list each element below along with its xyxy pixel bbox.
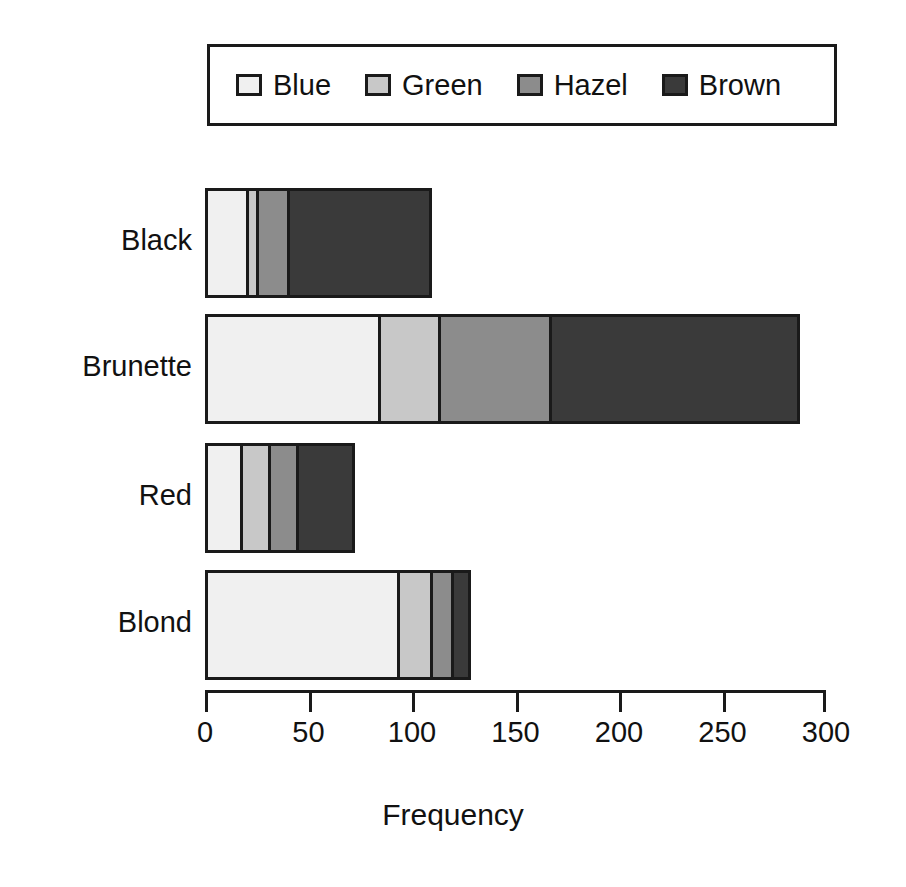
- x-axis-tick-label: 250: [698, 718, 746, 747]
- category-label-wrap: Brunette: [32, 352, 192, 386]
- bar-segment-black-hazel: [259, 191, 290, 295]
- x-axis-tick: [723, 690, 726, 712]
- category-label-red: Red: [32, 481, 192, 510]
- x-axis-tick-label: 0: [197, 718, 213, 747]
- bar-segment-brunette-green: [381, 317, 441, 421]
- bar-segment-red-hazel: [271, 446, 299, 550]
- bar-segment-black-brown: [290, 191, 429, 295]
- x-axis-tick-label: 200: [595, 718, 643, 747]
- bar-segment-red-green: [243, 446, 271, 550]
- category-label-wrap: Blond: [32, 608, 192, 642]
- x-axis-tick: [205, 690, 208, 712]
- category-label-blond: Blond: [32, 608, 192, 637]
- x-axis-tick-label: 50: [292, 718, 324, 747]
- x-axis-title: Frequency: [0, 800, 906, 830]
- category-label-wrap: Red: [32, 481, 192, 515]
- bar-segment-brunette-hazel: [441, 317, 552, 421]
- x-axis-tick-label: 100: [388, 718, 436, 747]
- plot-area: BlackBrunetteRedBlond: [0, 0, 906, 887]
- x-axis-tick: [516, 690, 519, 712]
- bar-segment-blond-green: [400, 573, 433, 677]
- bar-segment-blond-blue: [208, 573, 400, 677]
- category-label-black: Black: [32, 226, 192, 255]
- bar-segment-blond-hazel: [433, 573, 453, 677]
- x-axis-tick: [619, 690, 622, 712]
- stacked-bar-chart: Blue Green Hazel Brown BlackBrunetteRedB…: [0, 0, 906, 887]
- bar-red: [205, 443, 355, 553]
- bar-brunette: [205, 314, 800, 424]
- x-axis-tick-label: 300: [802, 718, 850, 747]
- bar-black: [205, 188, 432, 298]
- x-axis-tick: [309, 690, 312, 712]
- bar-segment-black-green: [249, 191, 259, 295]
- bar-blond: [205, 570, 471, 680]
- x-axis-tick: [823, 690, 826, 712]
- x-axis-tick-label: 150: [491, 718, 539, 747]
- category-label-brunette: Brunette: [32, 352, 192, 381]
- bar-segment-red-brown: [299, 446, 352, 550]
- bar-segment-red-blue: [208, 446, 243, 550]
- bar-segment-black-blue: [208, 191, 249, 295]
- bar-segment-brunette-brown: [552, 317, 797, 421]
- bar-segment-blond-brown: [454, 573, 468, 677]
- bar-segment-brunette-blue: [208, 317, 381, 421]
- category-label-wrap: Black: [32, 226, 192, 260]
- x-axis-tick: [412, 690, 415, 712]
